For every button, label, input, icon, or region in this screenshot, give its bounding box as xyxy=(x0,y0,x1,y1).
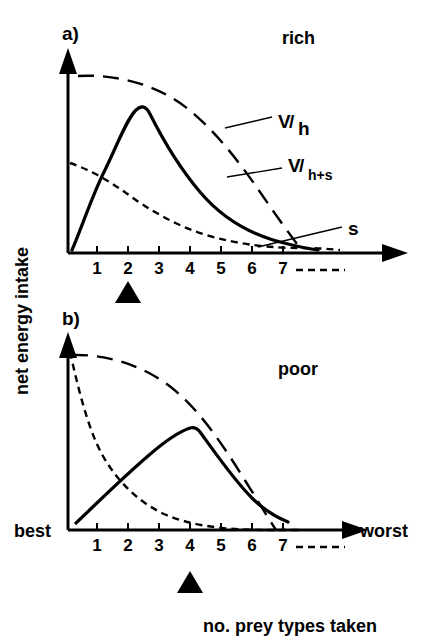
panel-a-optimum-marker xyxy=(115,281,141,303)
panel-a-tick-label-2: 2 xyxy=(123,259,132,278)
panel-b-curve-s xyxy=(70,352,300,530)
panel-b-tick-label-2: 2 xyxy=(123,536,132,555)
panel-b-condition-label: poor xyxy=(278,359,318,379)
panel-b-tick-label-7: 7 xyxy=(278,536,287,555)
panel-a-letter: a) xyxy=(62,23,79,44)
panel-a: a) rich 1 2 3 4 5 xyxy=(59,23,408,303)
svg-text:/: / xyxy=(289,111,295,132)
panel-a-tick-label-1: 1 xyxy=(92,259,101,278)
panel-b-letter: b) xyxy=(62,308,80,329)
panel-a-leader-s xyxy=(258,227,342,247)
panel-a-tick-label-4: 4 xyxy=(185,259,195,278)
panel-b-optimum-marker xyxy=(177,571,203,593)
svg-text:/: / xyxy=(299,155,305,176)
figure-root: a) rich 1 2 3 4 5 xyxy=(0,0,434,643)
panel-a-tick-label-6: 6 xyxy=(247,259,256,278)
panel-b-axis-right-end-label: worst xyxy=(359,521,408,541)
panel-b-curve-v-over-h-plus-s xyxy=(76,428,288,523)
panel-a-label-v-over-h: V / h xyxy=(278,111,310,139)
panel-a-x-axis-arrowhead xyxy=(382,244,408,262)
panel-b-axis-left-end-label: best xyxy=(14,521,51,541)
panel-b-curve-v-over-h xyxy=(72,355,276,530)
panel-a-curve-v-over-h xyxy=(78,76,300,248)
panel-b: b) poor 1 2 3 4 5 xyxy=(14,308,408,593)
figure-canvas: a) rich 1 2 3 4 5 xyxy=(0,0,434,643)
panel-a-tick-label-3: 3 xyxy=(154,259,163,278)
panel-b-tick-label-6: 6 xyxy=(247,536,256,555)
y-axis-title: net energy intake xyxy=(12,247,32,395)
svg-text:h: h xyxy=(298,118,310,139)
svg-text:h+s: h+s xyxy=(308,167,333,183)
panel-b-tick-label-5: 5 xyxy=(216,536,225,555)
panel-a-condition-label: rich xyxy=(282,28,315,48)
panel-a-leader-v-over-h-plus-s xyxy=(227,168,282,177)
panel-a-label-s: s xyxy=(348,218,359,239)
panel-a-label-v-over-h-plus-s: V / h+s xyxy=(288,155,333,183)
x-axis-title: no. prey types taken xyxy=(203,616,377,636)
panel-a-tick-label-5: 5 xyxy=(216,259,225,278)
panel-b-tick-label-1: 1 xyxy=(92,536,101,555)
panel-a-tick-label-7: 7 xyxy=(278,259,287,278)
panel-b-tick-label-4: 4 xyxy=(185,536,195,555)
panel-a-leader-v-over-h xyxy=(225,117,272,128)
panel-a-y-axis-arrowhead xyxy=(59,48,77,74)
panel-b-tick-label-3: 3 xyxy=(154,536,163,555)
